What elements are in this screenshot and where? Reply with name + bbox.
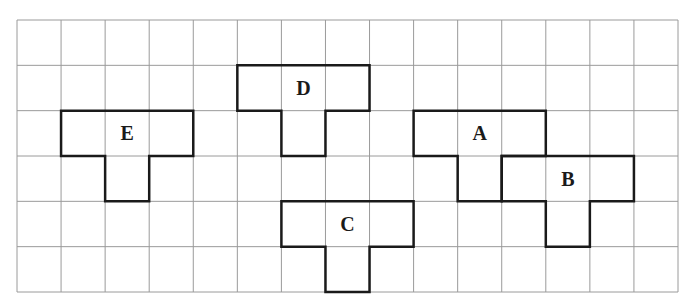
shape-label: B (561, 168, 574, 190)
shape-label: A (472, 122, 487, 144)
shape-label: E (120, 122, 133, 144)
grid-diagram: DEABC (0, 0, 685, 304)
shape-label: C (340, 213, 354, 235)
shape-label: D (296, 77, 310, 99)
t-shapes: DEABC (61, 65, 634, 292)
